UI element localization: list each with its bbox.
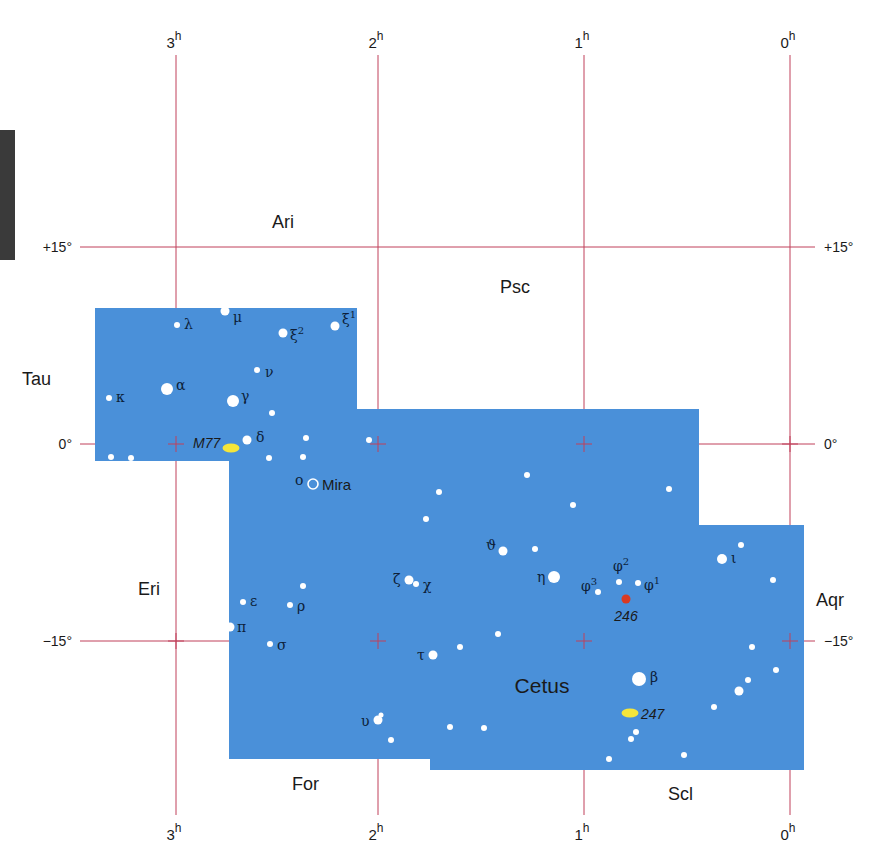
deep-sky-label: 247 — [640, 706, 666, 722]
star-dot — [128, 455, 134, 461]
star-dot — [279, 329, 288, 338]
star-dot — [711, 704, 717, 710]
star-dot — [457, 644, 463, 650]
star-dot — [267, 641, 273, 647]
neighbor-label-eri: Eri — [138, 579, 160, 599]
star-greek-label: η — [537, 569, 545, 585]
dec-label-right: −15° — [824, 633, 853, 649]
star-dot — [429, 651, 438, 660]
star-dot — [240, 599, 246, 605]
star-dot — [108, 454, 114, 460]
star-dot — [243, 436, 252, 445]
star-dot — [221, 307, 230, 316]
dec-label-left: +15° — [43, 239, 72, 255]
star-dot — [570, 502, 576, 508]
star-dot — [287, 602, 293, 608]
star-dot — [174, 322, 180, 328]
star-dot — [595, 589, 601, 595]
star-dot — [269, 410, 275, 416]
star-dot — [635, 580, 641, 586]
ra-hour-label: 1h — [574, 821, 589, 843]
star-greek-label: σ — [277, 637, 287, 653]
star-greek-label: υ — [361, 713, 370, 729]
star-dot — [633, 729, 639, 735]
star-dot — [548, 571, 560, 583]
star-dot — [405, 576, 414, 585]
galaxy-marker — [622, 709, 639, 718]
star-greek-label: ι — [731, 550, 737, 566]
dec-label-right: +15° — [824, 239, 853, 255]
star-greek-label: ε — [250, 593, 257, 609]
star-greek-label: ζ — [393, 571, 401, 587]
constellation-name-label: Cetus — [515, 674, 570, 697]
star-dot — [366, 437, 372, 443]
star-greek-label: δ — [256, 429, 264, 445]
star-dot — [227, 395, 239, 407]
mira-greek-label: ο — [295, 472, 303, 488]
neighbor-label-tau: Tau — [22, 369, 51, 389]
star-dot — [436, 489, 442, 495]
star-dot — [770, 577, 776, 583]
star-dot — [161, 383, 173, 395]
star-greek-label: μ — [233, 309, 242, 325]
star-greek-label: β — [650, 669, 658, 685]
star-dot — [300, 583, 306, 589]
star-dot — [254, 367, 260, 373]
ra-hour-label: 1h — [574, 29, 589, 51]
star-dot — [413, 581, 419, 587]
star-dot — [106, 395, 112, 401]
ra-hour-label: 3h — [166, 821, 181, 843]
star-greek-label: ν — [265, 364, 274, 380]
star-greek-label: τ — [417, 647, 425, 663]
nebula-marker — [622, 595, 631, 604]
star-dot — [379, 713, 384, 718]
star-dot — [666, 486, 672, 492]
galaxy-marker — [223, 444, 240, 453]
star-dot — [735, 687, 744, 696]
star-dot — [773, 667, 779, 673]
star-dot — [423, 516, 429, 522]
star-greek-label: π — [237, 619, 246, 635]
cetus-star-chart: 3h3h2h2h1h1h0h0h+15°+15°0°0°−15°−15° Ari… — [0, 0, 896, 859]
star-dot — [331, 322, 340, 331]
star-dot — [616, 579, 622, 585]
star-dot — [303, 435, 309, 441]
dec-label-left: 0° — [59, 436, 72, 452]
star-dot — [738, 542, 744, 548]
ra-hour-label: 0h — [780, 821, 795, 843]
neighbor-label-aqr: Aqr — [816, 590, 844, 610]
mira-label: Mira — [322, 476, 352, 493]
star-dot — [749, 644, 755, 650]
star-dot — [717, 554, 727, 564]
deep-sky-label: M77 — [193, 435, 221, 451]
star-dot — [447, 724, 453, 730]
star-greek-label: ρ — [297, 598, 305, 614]
star-dot — [632, 672, 646, 686]
ra-hour-label: 0h — [780, 29, 795, 51]
star-dot — [745, 677, 751, 683]
star-dot — [628, 736, 634, 742]
dec-label-right: 0° — [824, 436, 837, 452]
star-dot — [681, 752, 687, 758]
dec-label-left: −15° — [43, 633, 72, 649]
star-dot — [532, 546, 538, 552]
ra-hour-label: 3h — [166, 29, 181, 51]
neighbor-label-for: For — [292, 774, 319, 794]
ra-hour-label: 2h — [368, 29, 383, 51]
star-dot — [266, 455, 272, 461]
star-greek-label: χ — [423, 577, 432, 593]
star-greek-label: α — [176, 377, 186, 393]
star-dot — [495, 631, 501, 637]
star-dot — [481, 725, 487, 731]
star-dot — [388, 737, 394, 743]
star-dot — [499, 547, 508, 556]
neighbor-label-scl: Scl — [668, 784, 693, 804]
star-greek-label: κ — [116, 389, 125, 405]
star-dot — [300, 454, 306, 460]
star-dot — [524, 472, 530, 478]
constellation-boundary-area — [95, 308, 804, 770]
star-dot — [226, 623, 235, 632]
star-greek-label: γ — [241, 388, 249, 404]
star-dot — [606, 756, 612, 762]
ra-hour-label: 2h — [368, 821, 383, 843]
